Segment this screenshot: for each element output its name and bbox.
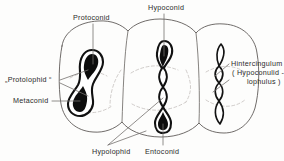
dashed-posterior-lower bbox=[206, 99, 246, 106]
label-hintercingulum-line2: ( Hypoconulid - bbox=[231, 68, 284, 77]
tooth-diagram-figure: Protoconid Hypoconid „Protolophid “ Meta… bbox=[0, 0, 284, 161]
dashed-middle-right bbox=[186, 70, 191, 102]
label-hintercingulum-line1: Hintercingulum bbox=[231, 59, 282, 68]
label-entoconid: Entoconid bbox=[145, 148, 179, 157]
anterior-lobe-crest bbox=[68, 50, 103, 116]
leader-hypolophid-b bbox=[108, 131, 146, 145]
label-hintercingulum: Hintercingulum ( Hypoconulid - lophulus … bbox=[231, 59, 284, 87]
label-hintercingulum-line3: lophulus ) bbox=[231, 77, 284, 86]
dashed-middle-upper bbox=[131, 66, 178, 73]
dashed-middle-lower bbox=[132, 102, 186, 110]
hypoconulid-lens-1 bbox=[217, 44, 224, 66]
posterior-lobe-crest bbox=[215, 44, 224, 124]
label-protolophid: „Protolophid “ bbox=[5, 76, 52, 85]
hypoconulid-lens-4 bbox=[215, 101, 223, 124]
middle-crest-lens-2 bbox=[159, 87, 167, 107]
valley-middle-posterior bbox=[196, 33, 199, 123]
label-hypolophid: Hypolophid bbox=[92, 148, 130, 157]
dashed-anterior-inner bbox=[110, 70, 121, 106]
middle-lobe-crest bbox=[155, 41, 172, 133]
leader-lines bbox=[52, 14, 229, 145]
valley-anterior-middle bbox=[122, 31, 128, 122]
middle-crest-lens-1 bbox=[159, 67, 167, 87]
label-metaconid: Metaconid bbox=[13, 97, 48, 106]
label-protoconid: Protoconid bbox=[73, 14, 110, 23]
label-hypoconid: Hypoconid bbox=[148, 4, 184, 13]
